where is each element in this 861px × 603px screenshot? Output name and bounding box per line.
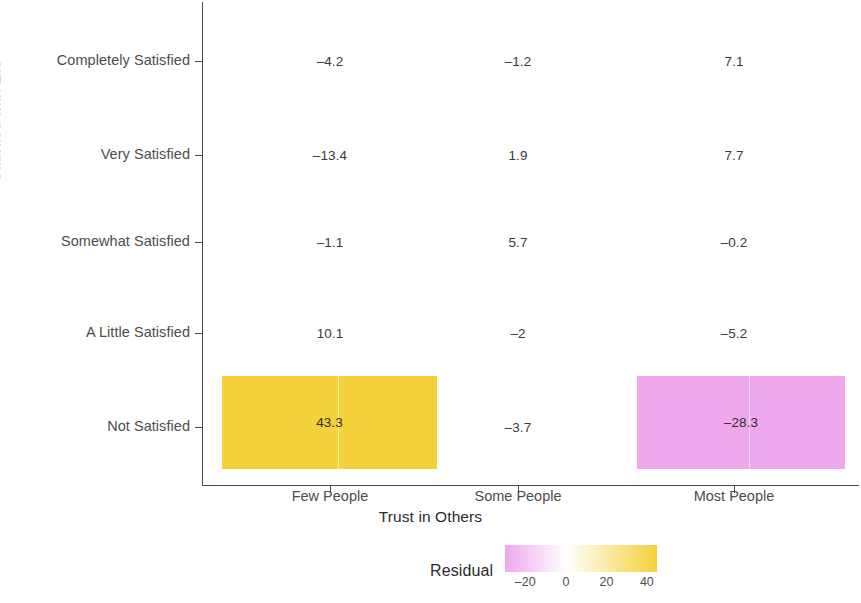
- x-axis-tick-label: Few People: [220, 488, 440, 504]
- heatmap-cell[interactable]: –1.2: [448, 50, 588, 72]
- y-axis-line: [202, 2, 203, 486]
- x-axis-title: Trust in Others: [0, 508, 861, 526]
- heatmap-cell[interactable]: 10.1: [260, 322, 400, 344]
- y-axis-tick-label: Very Satisfied: [5, 146, 190, 162]
- heatmap-cell[interactable]: –0.2: [664, 231, 804, 253]
- heatmap-cell-value: –3.7: [448, 416, 588, 438]
- heatmap-cell-value: –28.3: [637, 376, 845, 469]
- heatmap-cell[interactable]: –13.4: [260, 144, 400, 166]
- heatmap-cell-value: –1.2: [448, 50, 588, 72]
- x-axis-tick-label: Most People: [624, 488, 844, 504]
- y-axis-tick-label: Not Satisfied: [5, 418, 190, 434]
- residual-mosaic-chart: Satisfied with Life Completely Satisfied…: [0, 0, 861, 603]
- heatmap-cell[interactable]: –1.1: [260, 231, 400, 253]
- x-axis-tick-label: Some People: [408, 488, 628, 504]
- heatmap-cell[interactable]: 43.3: [222, 376, 437, 469]
- legend-tick-label: –20: [515, 575, 536, 589]
- heatmap-cell[interactable]: 7.7: [664, 144, 804, 166]
- legend-colorbar: [505, 545, 657, 572]
- legend: Residual –2002040: [0, 545, 861, 603]
- heatmap-cell-value: 7.1: [664, 50, 804, 72]
- heatmap-cell[interactable]: –2: [448, 322, 588, 344]
- legend-tick-label: 0: [562, 575, 569, 589]
- heatmap-cell[interactable]: –3.7: [448, 416, 588, 438]
- heatmap-cell-value: –13.4: [260, 144, 400, 166]
- y-axis-tick: [195, 61, 203, 62]
- legend-tick-labels: –2002040: [505, 575, 657, 595]
- y-axis-title-text: Satisfied with Life: [0, 160, 4, 182]
- y-axis-tick: [195, 333, 203, 334]
- heatmap-cell[interactable]: –28.3: [637, 376, 845, 469]
- y-axis-tick: [195, 155, 203, 156]
- heatmap-cell[interactable]: 1.9: [448, 144, 588, 166]
- legend-colorbar-wrap: –2002040: [505, 545, 657, 595]
- y-axis-tick-label: A Little Satisfied: [5, 324, 190, 340]
- y-axis-tick: [195, 427, 203, 428]
- heatmap-cell-value: 7.7: [664, 144, 804, 166]
- heatmap-cell-value: 10.1: [260, 322, 400, 344]
- heatmap-cell[interactable]: 5.7: [448, 231, 588, 253]
- heatmap-cell-value: –1.1: [260, 231, 400, 253]
- heatmap-cell-value: –5.2: [664, 322, 804, 344]
- heatmap-cell[interactable]: –4.2: [260, 50, 400, 72]
- heatmap-cell-value: 5.7: [448, 231, 588, 253]
- heatmap-cell[interactable]: 7.1: [664, 50, 804, 72]
- heatmap-cell-value: –4.2: [260, 50, 400, 72]
- y-axis-tick-label: Somewhat Satisfied: [5, 233, 190, 249]
- legend-tick-label: 20: [599, 575, 613, 589]
- heatmap-cell[interactable]: –5.2: [664, 322, 804, 344]
- heatmap-cell-value: –0.2: [664, 231, 804, 253]
- legend-title: Residual: [430, 562, 493, 580]
- heatmap-cell-value: 1.9: [448, 144, 588, 166]
- heatmap-cell-value: –2: [448, 322, 588, 344]
- y-axis-tick-label: Completely Satisfied: [5, 52, 190, 68]
- y-axis-tick: [195, 242, 203, 243]
- legend-tick-label: 40: [640, 575, 654, 589]
- x-axis-line: [202, 485, 859, 486]
- heatmap-cell-value: 43.3: [222, 376, 437, 469]
